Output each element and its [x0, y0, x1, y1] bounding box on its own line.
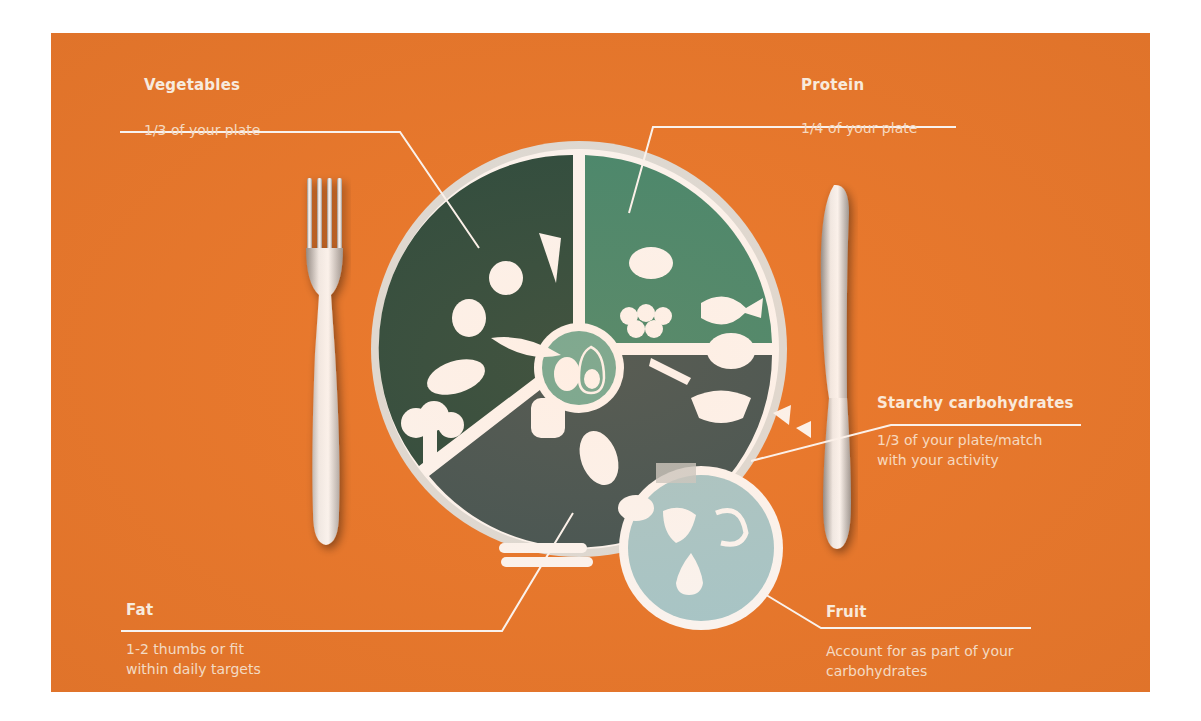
fruit-circle — [628, 475, 774, 621]
pasta-bow-icon — [773, 405, 811, 438]
infographic-panel: Vegetables 1/3 of your plate Protein 1/4… — [51, 33, 1150, 692]
fork-icon — [306, 178, 343, 545]
fat-description-line1: 1-2 thumbs or fit — [126, 639, 261, 659]
starchy-description-line1: 1/3 of your plate/match — [877, 430, 1074, 450]
protein-label: Protein 1/4 of your plate — [801, 76, 917, 138]
fat-title: Fat — [126, 601, 261, 619]
starchy-label: Starchy carbohydrates 1/3 of your plate/… — [877, 394, 1074, 470]
fries-icon — [656, 463, 696, 483]
turnip-icon — [452, 299, 486, 337]
bell-pepper-icon — [531, 398, 565, 438]
tomato-icon — [489, 261, 523, 295]
fruit-description-line1: Account for as part of your — [826, 641, 1014, 661]
starchy-description-line2: with your activity — [877, 450, 1074, 470]
fat-label: Fat 1-2 thumbs or fit within daily targe… — [126, 601, 261, 679]
fruit-label: Fruit Account for as part of your carboh… — [826, 603, 1014, 681]
protein-title: Protein — [801, 76, 917, 94]
egg-icon — [554, 357, 580, 391]
starchy-title: Starchy carbohydrates — [877, 394, 1074, 412]
vegetables-label: Vegetables 1/3 of your plate — [144, 76, 260, 140]
protein-segment — [585, 155, 772, 343]
fruit-title: Fruit — [826, 603, 1014, 621]
knife-icon — [821, 185, 851, 549]
potato-icon — [618, 495, 654, 521]
fat-description-line2: within daily targets — [126, 659, 261, 679]
vegetables-description: 1/3 of your plate — [144, 120, 260, 140]
rice-bowl-icon — [691, 391, 751, 424]
fruit-description-line2: carbohydrates — [826, 661, 1014, 681]
ham-icon — [629, 247, 673, 279]
vegetables-title: Vegetables — [144, 76, 260, 94]
roast-chicken-icon — [707, 333, 755, 369]
protein-description: 1/4 of your plate — [801, 118, 917, 138]
